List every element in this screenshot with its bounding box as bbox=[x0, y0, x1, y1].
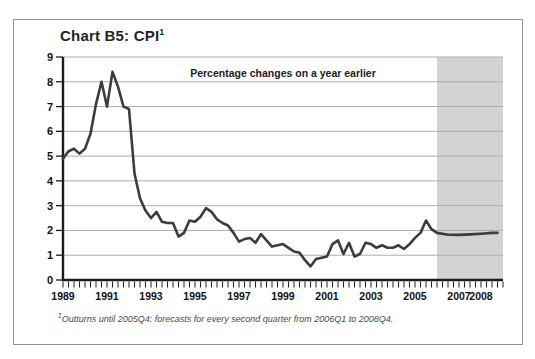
x-axis-year-label: 1989 bbox=[51, 290, 75, 302]
x-axis-year-label: 1995 bbox=[183, 290, 207, 302]
cpi-line bbox=[63, 72, 498, 267]
x-axis-year-label: 2008 bbox=[469, 290, 493, 302]
y-axis-tick-label: 3 bbox=[47, 200, 53, 212]
y-axis-tick-label: 7 bbox=[47, 101, 53, 113]
x-axis-year-label: 1991 bbox=[95, 290, 119, 302]
x-axis-year-label: 2005 bbox=[403, 290, 427, 302]
x-axis-year-label: 2001 bbox=[315, 290, 339, 302]
page: 0123456789198919911993199519971999200120… bbox=[0, 0, 535, 359]
y-axis-tick-label: 5 bbox=[47, 150, 53, 162]
y-axis-tick-label: 0 bbox=[47, 274, 53, 286]
x-axis-year-label: 1997 bbox=[227, 290, 251, 302]
x-axis-year-label: 2003 bbox=[359, 290, 383, 302]
y-axis-tick-label: 9 bbox=[47, 51, 53, 63]
y-axis-tick-label: 4 bbox=[47, 175, 54, 187]
y-axis-tick-label: 8 bbox=[47, 76, 53, 88]
y-axis-tick-label: 2 bbox=[47, 224, 53, 236]
chart-title: Chart B5: CPI1 bbox=[60, 27, 165, 44]
x-axis-year-label: 2007 bbox=[447, 290, 471, 302]
footnote-text: Outturns until 2005Q4: forecasts for eve… bbox=[62, 314, 394, 324]
y-axis-tick-label: 6 bbox=[47, 125, 53, 137]
y-axis-tick-label: 1 bbox=[47, 249, 53, 261]
x-axis-year-label: 1993 bbox=[139, 290, 163, 302]
chart-title-superscript: 1 bbox=[159, 27, 164, 37]
chart-box: 0123456789198919911993199519971999200120… bbox=[13, 19, 523, 345]
units-annotation: Percentage changes on a year earlier bbox=[63, 67, 503, 79]
chart-footnote: 1Outturns until 2005Q4: forecasts for ev… bbox=[58, 314, 393, 324]
x-axis-year-label: 1999 bbox=[271, 290, 295, 302]
chart-title-text: Chart B5: CPI bbox=[60, 27, 159, 44]
forecast-shaded-region bbox=[437, 57, 503, 280]
